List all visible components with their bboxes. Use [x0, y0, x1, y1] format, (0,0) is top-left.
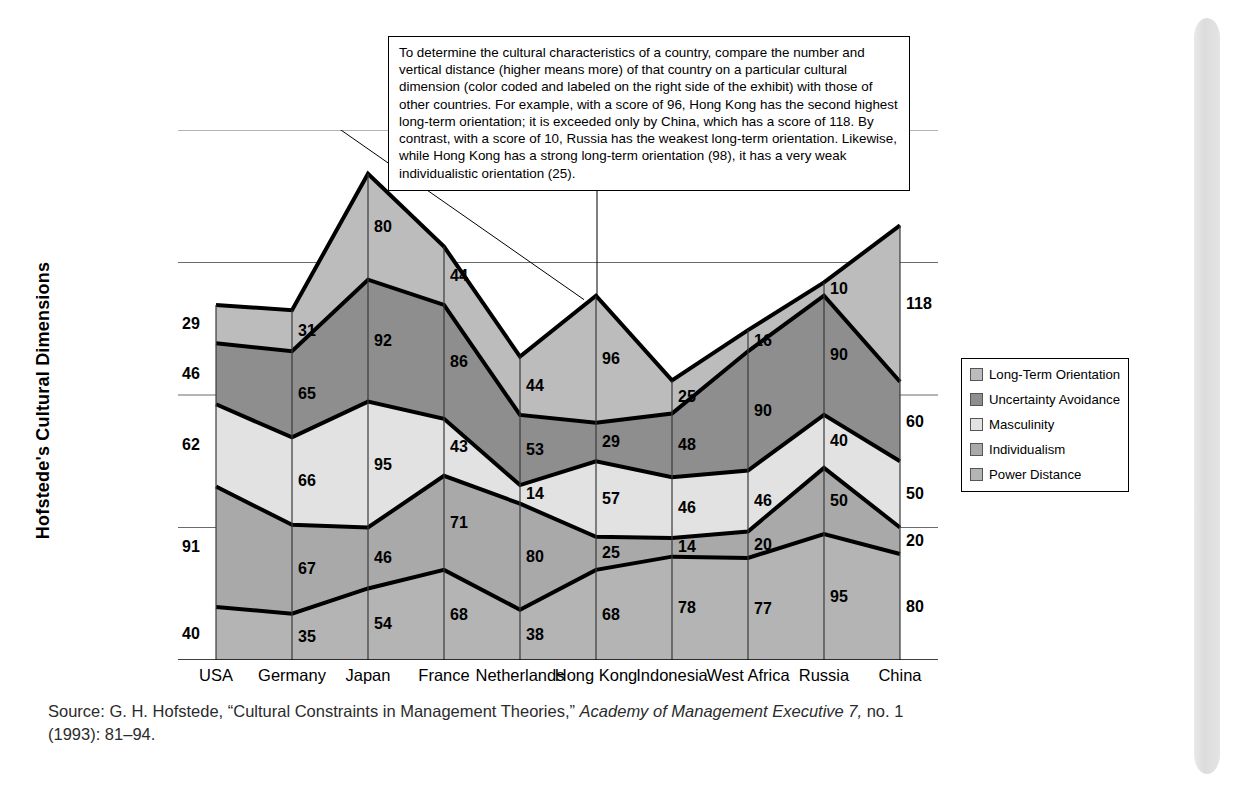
data-value-label: 67: [298, 561, 316, 577]
legend-swatch: [970, 418, 983, 431]
data-value-label: 80: [906, 599, 924, 615]
data-value-label: 29: [182, 316, 200, 332]
data-value-label: 44: [526, 378, 544, 394]
data-value-label: 38: [526, 627, 544, 643]
x-axis-label: USA: [199, 666, 233, 685]
data-value-label: 80: [526, 549, 544, 565]
data-value-label: 44: [450, 268, 468, 284]
legend-label: Power Distance: [989, 467, 1081, 482]
exhibit-container: Hofstede's Cultural Dimensions USAGerman…: [0, 0, 1130, 792]
data-value-label: 16: [754, 333, 772, 349]
data-value-label: 46: [678, 500, 696, 516]
data-value-label: 25: [602, 545, 620, 561]
source-journal: Academy of Management Executive 7,: [580, 702, 862, 720]
x-axis-label: France: [418, 666, 469, 685]
legend-swatch: [970, 468, 983, 481]
data-value-label: 80: [374, 219, 392, 235]
legend-item: Masculinity: [970, 417, 1121, 432]
data-value-label: 90: [830, 347, 848, 363]
data-value-label: 60: [906, 414, 924, 430]
chart-svg: [178, 130, 938, 660]
data-value-label: 77: [754, 601, 772, 617]
data-value-label: 50: [830, 493, 848, 509]
legend-item: Power Distance: [970, 467, 1121, 482]
x-axis-labels: USAGermanyJapanFranceNetherlandsHong Kon…: [140, 666, 960, 694]
legend-label: Uncertainty Avoidance: [989, 392, 1120, 407]
data-value-label: 46: [182, 366, 200, 382]
data-value-label: 14: [526, 486, 544, 502]
data-value-label: 46: [374, 550, 392, 566]
data-value-label: 90: [754, 403, 772, 419]
data-value-label: 20: [754, 537, 772, 553]
chart-legend: Long-Term OrientationUncertainty Avoidan…: [961, 358, 1129, 492]
data-value-label: 35: [298, 629, 316, 645]
data-value-label: 57: [602, 491, 620, 507]
data-value-label: 68: [450, 607, 468, 623]
data-value-label: 95: [374, 457, 392, 473]
data-value-label: 118: [906, 296, 932, 312]
x-axis-label: Indonesia: [636, 666, 708, 685]
data-value-label: 78: [678, 600, 696, 616]
data-value-label: 46: [754, 493, 772, 509]
data-value-label: 92: [374, 333, 392, 349]
legend-item: Long-Term Orientation: [970, 367, 1121, 382]
callout-annotation: To determine the cultural characteristic…: [388, 36, 910, 191]
data-value-label: 43: [450, 439, 468, 455]
data-value-label: 91: [182, 539, 200, 555]
data-value-label: 95: [830, 589, 848, 605]
y-axis-title: Hofstede's Cultural Dimensions: [33, 236, 54, 566]
data-value-label: 48: [678, 437, 696, 453]
data-value-label: 86: [450, 354, 468, 370]
x-axis-label: West Africa: [706, 666, 789, 685]
data-value-label: 53: [526, 442, 544, 458]
legend-swatch: [970, 443, 983, 456]
stacked-area-chart: [178, 130, 938, 660]
x-axis-label: Hong Kong: [555, 666, 638, 685]
legend-swatch: [970, 393, 983, 406]
data-value-label: 29: [602, 434, 620, 450]
legend-label: Long-Term Orientation: [989, 367, 1120, 382]
legend-item: Uncertainty Avoidance: [970, 392, 1121, 407]
data-value-label: 40: [830, 433, 848, 449]
data-value-label: 50: [906, 486, 924, 502]
data-value-label: 96: [602, 351, 620, 367]
data-value-label: 14: [678, 539, 696, 555]
data-value-label: 31: [298, 323, 316, 339]
source-prefix: Source: G. H. Hofstede, “Cultural Constr…: [48, 702, 580, 720]
data-value-label: 68: [602, 607, 620, 623]
data-value-label: 10: [830, 281, 848, 297]
data-value-label: 40: [182, 626, 200, 642]
data-value-label: 62: [182, 437, 200, 453]
x-axis-label: Japan: [346, 666, 391, 685]
legend-label: Individualism: [989, 442, 1065, 457]
x-axis-label: Netherlands: [476, 666, 565, 685]
data-value-label: 71: [450, 515, 468, 531]
data-value-label: 65: [298, 386, 316, 402]
page-edge-decoration: [1194, 18, 1220, 774]
legend-label: Masculinity: [989, 417, 1054, 432]
legend-swatch: [970, 368, 983, 381]
data-value-label: 25: [678, 389, 696, 405]
data-value-label: 66: [298, 473, 316, 489]
x-axis-label: Germany: [258, 666, 326, 685]
data-value-label: 54: [374, 616, 392, 632]
x-axis-label: Russia: [799, 666, 849, 685]
legend-item: Individualism: [970, 442, 1121, 457]
data-value-label: 20: [906, 533, 924, 549]
source-citation: Source: G. H. Hofstede, “Cultural Constr…: [48, 700, 908, 746]
x-axis-label: China: [878, 666, 921, 685]
